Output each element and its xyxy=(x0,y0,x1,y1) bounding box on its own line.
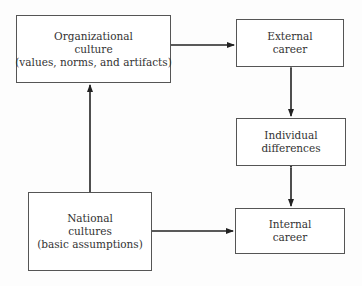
node-organizational-culture: Organizational culture (values, norms, a… xyxy=(16,15,171,83)
diagram-canvas: Organizational culture (values, norms, a… xyxy=(0,0,362,286)
node-label-line: (basic assumptions) xyxy=(37,238,143,251)
node-label-line: career xyxy=(273,231,308,244)
node-individual-differences: Individual differences xyxy=(236,118,346,166)
node-label-line: differences xyxy=(261,142,320,155)
node-external-career: External career xyxy=(236,19,344,67)
node-national-cultures: National cultures (basic assumptions) xyxy=(28,192,152,271)
node-label-line: (values, norms, and artifacts) xyxy=(15,56,171,69)
node-internal-career: Internal career xyxy=(235,208,345,254)
node-label-line: culture xyxy=(74,43,112,56)
node-label-line: cultures xyxy=(68,225,112,238)
node-label-line: External xyxy=(267,30,312,43)
node-label-line: Internal xyxy=(269,218,312,231)
node-label-line: Individual xyxy=(264,129,317,142)
node-label-line: National xyxy=(67,212,113,225)
node-label-line: Organizational xyxy=(54,30,133,43)
node-label-line: career xyxy=(273,43,308,56)
